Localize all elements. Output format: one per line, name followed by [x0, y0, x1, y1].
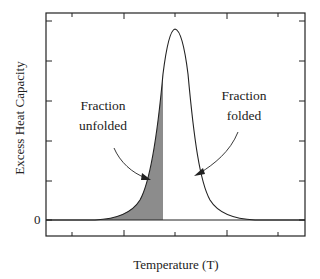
annotation-unfolded-line1: Fraction: [69, 96, 137, 116]
arrow-head-folded: [194, 168, 205, 176]
bottom-ticks: [72, 230, 278, 236]
arrow-folded: [200, 132, 238, 173]
y-tick-zero: 0: [34, 212, 41, 228]
x-axis-label: Temperature (T): [133, 257, 218, 273]
top-ticks: [72, 13, 278, 19]
annotation-fraction-folded: Fraction folded: [214, 86, 274, 126]
annotation-fraction-unfolded: Fraction unfolded: [69, 96, 137, 136]
annotation-folded-line1: Fraction: [214, 86, 274, 106]
left-ticks: [46, 21, 52, 220]
y-axis-label: Excess Heat Capacity: [12, 61, 28, 174]
annotation-unfolded-line2: unfolded: [69, 116, 137, 136]
annotation-folded-line2: folded: [214, 106, 274, 126]
arrow-unfolded: [114, 148, 146, 178]
heat-capacity-chart: [0, 0, 320, 279]
right-ticks: [299, 21, 305, 220]
